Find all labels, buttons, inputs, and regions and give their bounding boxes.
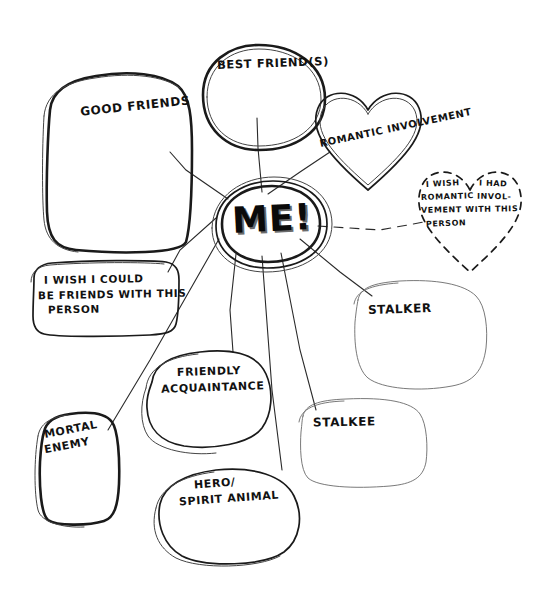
connector-wish-friends xyxy=(168,218,216,272)
connector-romantic xyxy=(268,152,330,194)
connector-stalkee xyxy=(281,253,316,410)
connector-group xyxy=(108,118,424,470)
node-wish-friends[interactable] xyxy=(31,261,179,337)
node-stalkee[interactable] xyxy=(299,399,427,488)
connector-mortal-enemy xyxy=(108,239,219,430)
center-label-me: ME! xyxy=(231,196,313,241)
connector-friendly-acq xyxy=(230,254,236,352)
node-wish-romantic[interactable] xyxy=(419,172,521,272)
mind-map-sketch: .ink { fill: none; stroke: #1a1a1a; stro… xyxy=(0,0,542,606)
node-hero-spirit-animal[interactable] xyxy=(154,469,299,566)
connector-hero xyxy=(262,256,282,470)
connector-good-friends xyxy=(170,152,228,199)
connector-best-friends xyxy=(257,118,262,192)
connector-wish-romantic-dashed xyxy=(318,222,424,230)
node-friendly-acquaintance[interactable] xyxy=(142,351,271,454)
node-romantic-involvement[interactable] xyxy=(316,93,422,190)
node-good-friends[interactable] xyxy=(43,73,193,252)
mind-map-canvas: .ink { fill: none; stroke: #1a1a1a; stro… xyxy=(0,0,542,606)
node-stalker[interactable] xyxy=(354,281,487,389)
node-best-friends[interactable] xyxy=(203,45,325,150)
node-mortal-enemy[interactable] xyxy=(35,413,119,527)
